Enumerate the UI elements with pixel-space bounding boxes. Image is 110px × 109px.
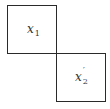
label-x1: x1 — [27, 23, 40, 35]
prime-mark: ′ — [83, 66, 85, 74]
variable-x: x — [27, 22, 34, 36]
subscript-2: 2 — [83, 77, 88, 86]
square-box-x1: x1 — [7, 5, 57, 54]
subscript-1: 1 — [35, 29, 40, 38]
square-box-x2-prime: x′2 — [56, 53, 106, 102]
label-x2-prime: x′2 — [75, 71, 88, 83]
variable-x: x — [75, 70, 82, 84]
